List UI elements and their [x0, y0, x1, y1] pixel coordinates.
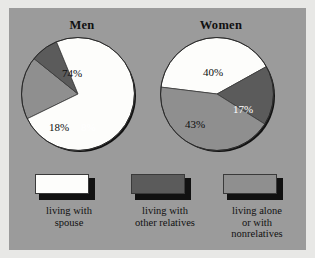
legend-label-alone: living alone or with nonrelatives — [209, 205, 305, 240]
pie-men-svg — [20, 36, 136, 152]
legend-label-line: spouse — [21, 217, 117, 229]
figure-panel: Men 74% 8% 18% Women 40% 17% 43% living … — [9, 8, 306, 250]
legend-swatch-spouse — [35, 174, 91, 196]
chart-title-men: Men — [22, 18, 142, 33]
legend-item-spouse: living with spouse — [21, 174, 117, 228]
legend-label-other-relatives: living with other relatives — [117, 205, 213, 228]
legend-label-line: or with — [209, 217, 305, 229]
legend-label-line: nonrelatives — [209, 228, 305, 240]
legend-label-spouse: living with spouse — [21, 205, 117, 228]
legend-swatch-face — [35, 174, 89, 194]
chart-title-women: Women — [161, 18, 281, 33]
legend-swatch-face — [131, 174, 185, 194]
legend-swatch-face — [223, 174, 277, 194]
legend-label-line: living with — [21, 205, 117, 217]
legend-label-line: living with — [117, 205, 213, 217]
pie-women-svg — [159, 36, 275, 152]
pie-chart-men: 74% 8% 18% — [18, 34, 146, 162]
legend-item-alone: living alone or with nonrelatives — [209, 174, 305, 240]
legend-label-line: living alone — [209, 205, 305, 217]
legend-swatch-alone — [223, 174, 279, 196]
legend-item-other-relatives: living with other relatives — [117, 174, 213, 228]
legend-swatch-other-relatives — [131, 174, 187, 196]
pie-chart-women: 40% 17% 43% — [157, 34, 285, 162]
legend-label-line: other relatives — [117, 217, 213, 229]
